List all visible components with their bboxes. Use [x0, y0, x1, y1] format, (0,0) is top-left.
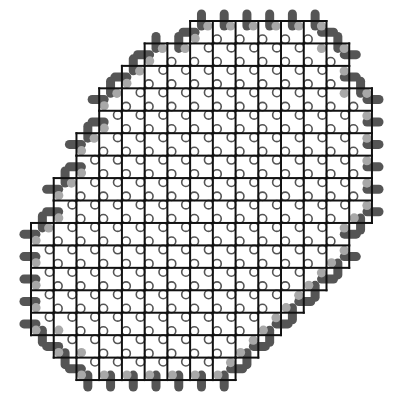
qubit-open-circle: [236, 192, 244, 200]
qubit-open-circle: [318, 223, 326, 231]
qubit-open-circle: [281, 215, 289, 223]
qubit-open-circle: [99, 304, 107, 312]
qubit-open-circle: [182, 156, 190, 164]
qubit-open-circle: [204, 111, 212, 119]
qubit-open-circle: [304, 125, 312, 133]
qubit-gray-dot: [54, 213, 63, 222]
qubit-open-circle: [250, 223, 258, 231]
qubit-open-circle: [326, 125, 334, 133]
qubit-open-circle: [182, 245, 190, 253]
qubit-open-circle: [190, 147, 198, 155]
qubit-open-circle: [190, 327, 198, 335]
qubit-open-circle: [204, 268, 212, 276]
qubit-open-circle: [250, 156, 258, 164]
qubit-open-circle: [182, 313, 190, 321]
qubit-open-circle: [159, 313, 167, 321]
qubit-open-circle: [295, 133, 303, 141]
qubit-gray-dot: [362, 134, 371, 143]
qubit-open-circle: [304, 35, 312, 43]
qubit-open-circle: [250, 133, 258, 141]
qubit-open-circle: [136, 358, 144, 366]
qubit-open-circle: [204, 43, 212, 51]
qubit-open-circle: [326, 147, 334, 155]
qubit-open-circle: [281, 57, 289, 65]
qubit-gray-dot: [317, 21, 326, 30]
qubit-open-circle: [76, 192, 84, 200]
qubit-open-circle: [76, 237, 84, 245]
qubit-open-circle: [304, 102, 312, 110]
qubit-open-circle: [281, 80, 289, 88]
qubit-gray-dot: [226, 21, 235, 30]
qubit-open-circle: [341, 201, 349, 209]
qubit-open-circle: [167, 57, 175, 65]
qubit-open-circle: [295, 201, 303, 209]
qubit-open-circle: [167, 102, 175, 110]
qubit-open-circle: [190, 237, 198, 245]
qubit-open-circle: [76, 327, 84, 335]
qubit-open-circle: [99, 237, 107, 245]
qubit-open-circle: [349, 102, 357, 110]
qubit-open-circle: [91, 358, 99, 366]
qubit-open-circle: [182, 88, 190, 96]
qubit-open-circle: [167, 327, 175, 335]
qubit-open-circle: [91, 335, 99, 343]
qubit-open-circle: [204, 88, 212, 96]
qubit-open-circle: [182, 335, 190, 343]
qubit-open-circle: [304, 192, 312, 200]
qubit-open-circle: [295, 178, 303, 186]
qubit-open-circle: [159, 268, 167, 276]
qubit-open-circle: [68, 335, 76, 343]
qubit-open-circle: [159, 223, 167, 231]
qubit-open-circle: [145, 170, 153, 178]
qubit-gray-dot: [362, 156, 371, 165]
qubit-open-circle: [281, 282, 289, 290]
qubit-open-circle: [273, 201, 281, 209]
qubit-open-circle: [167, 237, 175, 245]
qubit-open-circle: [326, 102, 334, 110]
qubit-open-circle: [182, 178, 190, 186]
qubit-open-circle: [213, 57, 221, 65]
qubit-gray-dot: [203, 21, 212, 30]
qubit-open-circle: [227, 133, 235, 141]
qubit-open-circle: [213, 147, 221, 155]
qubit-open-circle: [273, 133, 281, 141]
qubit-open-circle: [258, 215, 266, 223]
qubit-open-circle: [145, 215, 153, 223]
qubit-open-circle: [68, 313, 76, 321]
qubit-open-circle: [182, 133, 190, 141]
qubit-open-circle: [318, 66, 326, 74]
qubit-open-circle: [122, 282, 130, 290]
qubit-open-circle: [258, 102, 266, 110]
qubit-open-circle: [204, 313, 212, 321]
qubit-open-circle: [190, 102, 198, 110]
qubit-open-circle: [281, 259, 289, 267]
qubit-open-circle: [167, 80, 175, 88]
qubit-open-circle: [159, 178, 167, 186]
qubit-open-circle: [182, 66, 190, 74]
qubit-open-circle: [304, 80, 312, 88]
qubit-open-circle: [236, 170, 244, 178]
qubit-open-circle: [114, 268, 122, 276]
qubit-open-circle: [250, 88, 258, 96]
qubit-open-circle: [236, 215, 244, 223]
qubit-gray-dot: [294, 21, 303, 30]
qubit-open-circle: [145, 237, 153, 245]
qubit-open-circle: [258, 147, 266, 155]
qubit-open-circle: [122, 349, 130, 357]
qubit-open-circle: [136, 201, 144, 209]
qubit-gray-dot: [31, 281, 40, 290]
qubit-open-circle: [236, 147, 244, 155]
qubit-open-circle: [227, 313, 235, 321]
qubit-open-circle: [114, 335, 122, 343]
qubit-open-circle: [236, 125, 244, 133]
qubit-open-circle: [213, 304, 221, 312]
qubit-open-circle: [341, 133, 349, 141]
qubit-open-circle: [236, 237, 244, 245]
qubit-open-circle: [54, 282, 62, 290]
qubit-open-circle: [213, 237, 221, 245]
qubit-open-circle: [236, 57, 244, 65]
qubit-open-circle: [213, 327, 221, 335]
qubit-open-circle: [190, 304, 198, 312]
qubit-open-circle: [99, 349, 107, 357]
qubit-open-circle: [295, 245, 303, 253]
